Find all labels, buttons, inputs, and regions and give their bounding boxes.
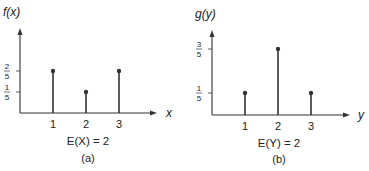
x-tick-label: 3 [116, 118, 122, 130]
x-tick-label: 1 [242, 120, 248, 132]
y-axis-label: f(x) [3, 5, 20, 19]
x-tick-label: 1 [50, 118, 56, 130]
x-axis-arrow-icon [150, 111, 157, 116]
y-axis-arrow-icon [210, 30, 215, 37]
y-tick-label-numerator: 1 [197, 84, 202, 93]
stem-marker [243, 91, 247, 95]
expectation-annotation: E(X) = 2 [67, 135, 110, 147]
y-tick-label-numerator: 3 [197, 40, 202, 49]
stem-marker [117, 69, 121, 73]
panel-caption: (a) [81, 152, 94, 164]
x-axis-label: x [165, 106, 173, 120]
x-tick-label: 2 [275, 120, 281, 132]
expectation-annotation: E(Y) = 2 [258, 137, 301, 149]
y-axis-arrow-icon [18, 28, 23, 35]
y-axis-label: g(y) [195, 7, 216, 21]
x-axis-label: y [357, 108, 365, 122]
y-tick-label-denominator: 5 [5, 93, 10, 102]
chart-panel-b: g(y)y1535123E(Y) = 2(b) [195, 7, 365, 165]
x-tick-label: 2 [83, 118, 89, 130]
stem-marker [84, 90, 88, 94]
stem-marker [309, 91, 313, 95]
stem-marker [51, 69, 55, 73]
figure: f(x)x1525123E(X) = 2(a)g(y)y1535123E(Y) … [0, 0, 369, 171]
y-tick-label-denominator: 5 [197, 94, 202, 103]
y-tick-label-numerator: 1 [5, 83, 10, 92]
y-tick-label-denominator: 5 [5, 72, 10, 81]
chart-panel-a: f(x)x1525123E(X) = 2(a) [3, 5, 173, 164]
x-axis-arrow-icon [343, 113, 350, 118]
x-tick-label: 3 [308, 120, 314, 132]
y-tick-label-numerator: 2 [5, 62, 10, 71]
stem-marker [276, 47, 280, 51]
panel-caption: (b) [272, 153, 285, 165]
y-tick-label-denominator: 5 [197, 50, 202, 59]
